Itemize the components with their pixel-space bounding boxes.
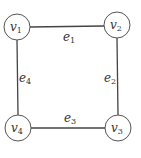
node-v1: v1 bbox=[4, 14, 30, 40]
edge-e1 bbox=[30, 26, 104, 27]
node-v3: v3 bbox=[105, 115, 131, 141]
edge-e4 bbox=[17, 40, 18, 115]
edge-label-e4: e4 bbox=[19, 71, 31, 86]
node-v4: v4 bbox=[5, 115, 31, 141]
node-v2: v2 bbox=[104, 12, 130, 38]
edge-label-e1: e1 bbox=[63, 30, 75, 45]
graph-diagram: v1 v2 v3 v4 e1 e2 e3 e4 bbox=[0, 0, 141, 158]
edge-label-e3: e3 bbox=[64, 111, 76, 126]
edge-label-e2: e2 bbox=[104, 71, 116, 86]
edge-e2 bbox=[117, 38, 118, 115]
